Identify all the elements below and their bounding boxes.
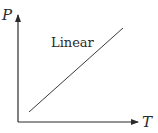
- x-axis-label: T: [142, 113, 153, 131]
- pt-diagram: P T Linear: [0, 0, 158, 133]
- y-axis-label: P: [1, 6, 13, 24]
- line-label: Linear: [51, 35, 95, 50]
